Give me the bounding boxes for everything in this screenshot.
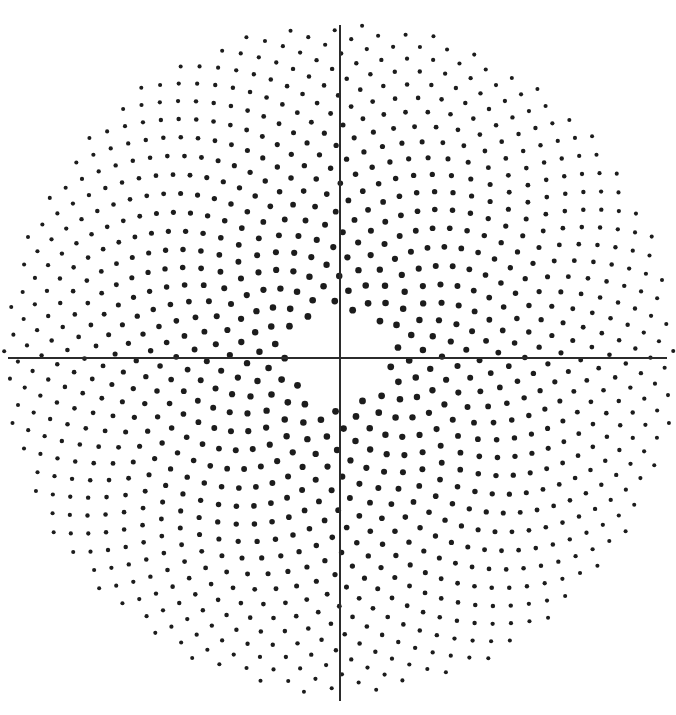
scatter-point: [649, 314, 653, 318]
scatter-point: [453, 561, 458, 566]
scatter-point: [320, 283, 327, 290]
scatter-point: [425, 667, 429, 671]
scatter-point: [420, 139, 425, 144]
scatter-point: [527, 602, 531, 606]
scatter-point: [526, 413, 531, 418]
scatter-point: [131, 580, 135, 584]
scatter-point: [373, 650, 377, 654]
scatter-point: [463, 347, 469, 353]
scatter-point: [237, 185, 242, 190]
scatter-point: [405, 603, 410, 608]
scatter-point: [465, 404, 471, 410]
scatter-point: [577, 154, 581, 158]
scatter-point: [284, 655, 288, 659]
scatter-point: [84, 278, 89, 283]
scatter-point: [628, 462, 632, 466]
scatter-point: [286, 514, 292, 520]
scatter-point: [510, 76, 514, 80]
scatter-point: [90, 377, 95, 382]
scatter-point: [158, 83, 162, 87]
scatter-point: [478, 91, 482, 95]
scatter-point: [595, 243, 600, 248]
scatter-point: [129, 275, 134, 280]
scatter-point: [212, 196, 217, 201]
scatter-point: [376, 181, 382, 187]
scatter-point: [259, 629, 264, 634]
scatter-point: [387, 159, 392, 164]
scatter-point: [419, 466, 425, 472]
scatter-point: [55, 362, 60, 367]
scatter-point: [405, 57, 409, 61]
scatter-point: [281, 416, 287, 422]
scatter-point: [224, 327, 230, 333]
scatter-point: [438, 300, 444, 306]
scatter-point: [413, 646, 417, 650]
scatter-point: [614, 473, 618, 477]
scatter-point: [216, 158, 221, 163]
scatter-point: [52, 530, 56, 534]
scatter-point: [455, 390, 461, 396]
scatter-point: [143, 374, 148, 379]
scatter-point: [366, 553, 371, 558]
scatter-point: [538, 143, 542, 147]
scatter-point: [329, 487, 335, 493]
scatter-point: [323, 43, 327, 47]
scatter-point: [154, 591, 158, 595]
scatter-point: [109, 566, 113, 570]
scatter-point: [301, 188, 307, 194]
scatter-point: [571, 389, 576, 394]
scatter-point: [365, 624, 370, 629]
scatter-point: [411, 173, 416, 178]
scatter-point: [312, 204, 318, 210]
scatter-point: [267, 442, 273, 448]
scatter-point: [544, 178, 549, 183]
scatter-point: [165, 568, 170, 573]
scatter-point: [589, 399, 594, 404]
scatter-point: [333, 209, 339, 215]
scatter-point: [509, 621, 513, 625]
scatter-point: [88, 550, 92, 554]
scatter-point: [171, 172, 176, 177]
scatter-point: [179, 64, 183, 68]
scatter-point: [277, 189, 283, 195]
scatter-point: [302, 690, 306, 694]
scatter-point: [314, 58, 318, 62]
scatter-point: [332, 572, 337, 577]
scatter-point: [330, 244, 336, 250]
scatter-point: [521, 395, 526, 400]
scatter-point: [236, 485, 242, 491]
scatter-point: [72, 370, 77, 375]
scatter-point: [353, 172, 358, 177]
scatter-point: [433, 263, 439, 269]
scatter-point: [400, 305, 406, 311]
scatter-point: [313, 451, 319, 457]
scatter-point: [475, 436, 481, 442]
scatter-point: [218, 269, 224, 275]
scatter-point: [322, 518, 328, 524]
scatter-point: [162, 551, 167, 556]
scatter-point: [22, 446, 26, 450]
scatter-point: [516, 548, 521, 553]
scatter-point: [528, 470, 533, 475]
scatter-point: [182, 333, 188, 339]
scatter-point: [183, 229, 188, 234]
scatter-point: [368, 72, 373, 77]
scatter-point: [418, 628, 423, 633]
scatter-point: [448, 338, 454, 344]
scatter-point: [510, 529, 515, 534]
scatter-point: [633, 230, 637, 234]
scatter-point: [344, 76, 349, 81]
scatter-point: [65, 348, 70, 353]
scatter-point: [245, 209, 251, 215]
scatter-point: [294, 289, 301, 296]
scatter-point: [632, 503, 636, 507]
scatter-point: [106, 332, 111, 337]
scatter-point: [603, 458, 608, 463]
scatter-point: [159, 534, 164, 539]
scatter-point: [381, 241, 387, 247]
scatter-point: [168, 466, 173, 471]
scatter-point: [542, 160, 547, 165]
scatter-point: [201, 329, 207, 335]
scatter-point: [65, 422, 70, 427]
scatter-point: [222, 218, 228, 224]
